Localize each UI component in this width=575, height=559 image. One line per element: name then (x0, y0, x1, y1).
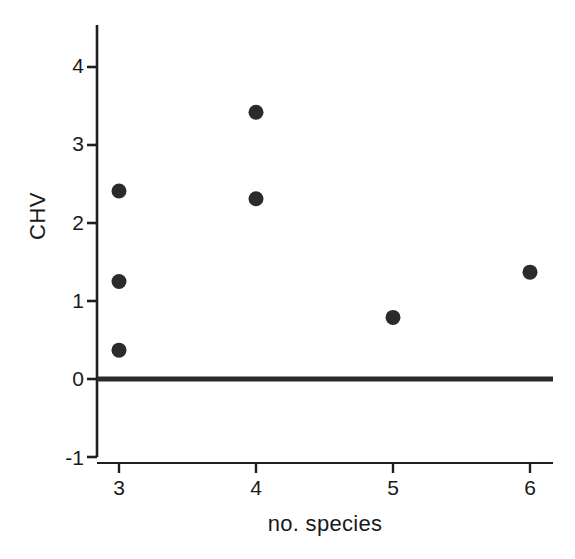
y-tick-label-0: 0 (72, 367, 84, 391)
x-tick-label-6: 6 (524, 476, 536, 500)
data-point-6 (523, 265, 538, 280)
data-points-group (112, 105, 538, 358)
data-point-1 (112, 274, 127, 289)
x-tick-label-5: 5 (387, 476, 399, 500)
y-tick-label-4: 4 (72, 54, 84, 78)
axes-group (87, 25, 553, 473)
data-point-2 (112, 343, 127, 358)
y-tick-label-2: 2 (72, 211, 84, 235)
data-point-4 (249, 191, 264, 206)
data-point-3 (249, 105, 264, 120)
y-axis-title: CHV (25, 192, 51, 240)
y-tick-label-minus-1: -1 (65, 446, 84, 470)
x-tick-label-3: 3 (113, 476, 125, 500)
x-tick-label-4: 4 (250, 476, 262, 500)
data-point-0 (112, 184, 127, 199)
scatter-plot-figure: 4 3 2 1 0 -1 3 4 5 6 CHV no. species (0, 0, 575, 559)
plot-canvas (0, 0, 575, 559)
x-axis-title: no. species (268, 511, 383, 537)
data-point-5 (386, 310, 401, 325)
y-tick-label-3: 3 (72, 132, 84, 156)
y-tick-label-1: 1 (72, 289, 84, 313)
